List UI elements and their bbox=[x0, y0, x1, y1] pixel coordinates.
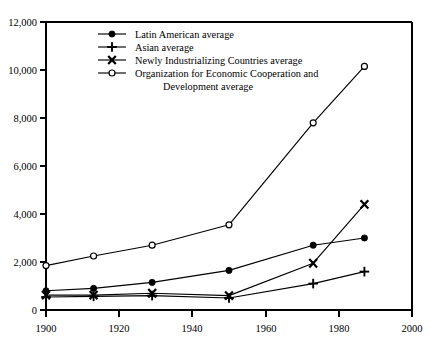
chart-figure: 12,000 10,000 8,000 6,000 4,000 2,000 0 … bbox=[0, 0, 430, 348]
x-axis-ticks: 1900 1920 1940 1960 1980 2000 bbox=[36, 310, 423, 334]
y-tick-label-2000: 2,000 bbox=[13, 257, 37, 268]
filled-circle-icon bbox=[361, 235, 367, 241]
filled-circle-icon bbox=[149, 279, 155, 285]
open-circle-icon bbox=[149, 242, 155, 248]
open-circle-icon bbox=[91, 253, 97, 259]
open-circle-icon bbox=[109, 70, 115, 76]
x-tick-label-2000: 2000 bbox=[402, 323, 423, 334]
legend-entry-nic: Newly Industrializing Countries average bbox=[98, 55, 303, 66]
y-axis-ticks: 12,000 10,000 8,000 6,000 4,000 2,000 0 bbox=[8, 17, 46, 316]
filled-circle-icon bbox=[310, 242, 316, 248]
filled-circle-icon bbox=[226, 267, 232, 273]
y-tick-label-10000: 10,000 bbox=[8, 65, 37, 76]
open-circle-icon bbox=[310, 120, 316, 126]
series-layer bbox=[41, 63, 369, 302]
legend-label-nic: Newly Industrializing Countries average bbox=[135, 55, 303, 66]
legend-entry-asian: Asian average bbox=[98, 42, 194, 53]
series-3 bbox=[42, 200, 368, 300]
series-4 bbox=[43, 63, 367, 268]
y-tick-label-0: 0 bbox=[32, 305, 37, 316]
legend-entry-latin-american: Latin American average bbox=[98, 29, 234, 40]
series-line-4 bbox=[46, 66, 364, 265]
chart-canvas: 12,000 10,000 8,000 6,000 4,000 2,000 0 … bbox=[0, 0, 430, 348]
filled-circle-icon bbox=[109, 31, 115, 37]
legend-entry-oecd: Organization for Economic Cooperation an… bbox=[98, 68, 319, 92]
chart-legend: Latin American average Asian average New… bbox=[98, 29, 319, 92]
legend-label-oecd-line2: Development average bbox=[163, 81, 253, 92]
series-line-3 bbox=[46, 204, 364, 295]
y-tick-label-6000: 6,000 bbox=[13, 161, 37, 172]
x-tick-label-1940: 1940 bbox=[182, 323, 203, 334]
y-tick-label-4000: 4,000 bbox=[13, 209, 37, 220]
series-1 bbox=[43, 235, 368, 294]
x-tick-label-1980: 1980 bbox=[329, 323, 350, 334]
open-circle-icon bbox=[226, 222, 232, 228]
x-tick-label-1900: 1900 bbox=[36, 323, 57, 334]
legend-label-latin-american: Latin American average bbox=[135, 29, 234, 40]
open-circle-icon bbox=[361, 63, 367, 69]
y-tick-label-8000: 8,000 bbox=[13, 113, 37, 124]
x-tick-label-1920: 1920 bbox=[109, 323, 130, 334]
open-circle-icon bbox=[43, 263, 49, 269]
x-tick-label-1960: 1960 bbox=[256, 323, 277, 334]
legend-label-asian: Asian average bbox=[135, 42, 194, 53]
legend-label-oecd: Organization for Economic Cooperation an… bbox=[135, 68, 319, 79]
y-tick-label-12000: 12,000 bbox=[8, 17, 37, 28]
filled-circle-icon bbox=[90, 285, 96, 291]
